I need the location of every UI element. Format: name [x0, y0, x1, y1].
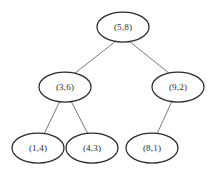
tree-node[interactable]: (8,1) — [126, 133, 178, 163]
node-label: (1,4) — [29, 143, 47, 153]
node-label: (3,6) — [56, 82, 74, 92]
tree-diagram-canvas: (5,8)(3,6)(9,2)(1,4)(4,3)(8,1) — [0, 0, 217, 172]
nodes-group: (5,8)(3,6)(9,2)(1,4)(4,3)(8,1) — [12, 12, 204, 163]
tree-node[interactable]: (4,3) — [66, 133, 118, 163]
tree-edge — [129, 41, 170, 74]
node-label: (4,3) — [83, 143, 101, 153]
tree-node[interactable]: (5,8) — [97, 12, 149, 42]
tree-edge — [74, 41, 116, 74]
tree-edge — [157, 101, 172, 134]
node-label: (5,8) — [114, 22, 132, 32]
tree-edge — [71, 101, 88, 134]
tree-edge — [44, 101, 60, 134]
node-label: (8,1) — [143, 143, 161, 153]
tree-diagram-svg: (5,8)(3,6)(9,2)(1,4)(4,3)(8,1) — [0, 0, 217, 172]
tree-node[interactable]: (9,2) — [152, 72, 204, 102]
node-label: (9,2) — [169, 82, 187, 92]
tree-node[interactable]: (1,4) — [12, 133, 64, 163]
tree-node[interactable]: (3,6) — [39, 72, 91, 102]
